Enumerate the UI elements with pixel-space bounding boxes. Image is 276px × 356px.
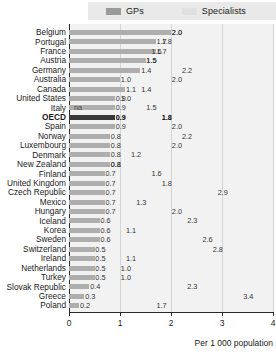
gp-value-label: 0.7 — [106, 207, 116, 216]
country-label: Hungary — [0, 207, 69, 216]
legend-label-specialists: Specialists — [202, 6, 246, 16]
bar-track: 0.82.2 — [69, 132, 273, 141]
legend-item-gps: GPs — [106, 6, 144, 16]
specialist-value-label: 1.8 — [162, 179, 172, 188]
na-annotation: na — [74, 103, 82, 112]
bar-track: 0.72.0 — [69, 207, 273, 216]
legend-item-specialists: Specialists — [182, 6, 246, 16]
gp-bar — [69, 96, 115, 101]
bar-track: 1.51.5 — [69, 56, 273, 65]
gp-bar — [69, 266, 95, 271]
gp-bar — [69, 303, 79, 308]
specialist-value-label: 2.0 — [172, 141, 182, 150]
specialist-value-label: 2.9 — [218, 188, 228, 197]
gp-value-label: 0.9 — [116, 122, 126, 131]
gp-bar — [69, 247, 95, 252]
gp-bar — [69, 58, 146, 63]
gp-bar — [69, 200, 105, 205]
country-label: New Zealand — [0, 160, 69, 169]
chart-row: United States0.91.0 — [0, 94, 276, 103]
bar-rows: Belgium2.02.0Portugal1.71.8France1.71.6A… — [0, 28, 276, 311]
specialist-value-label: 2.8 — [213, 245, 223, 254]
gp-value-label: 1.0 — [121, 75, 131, 84]
specialist-value-label: 2.0 — [172, 75, 182, 84]
gp-value-label: 0.9 — [116, 113, 126, 122]
bar-track: 0.71.8 — [69, 179, 273, 188]
specialist-value-label: 1.0 — [121, 264, 131, 273]
chart-legend: GPs Specialists — [88, 2, 276, 20]
bar-track: 0.61.1 — [69, 226, 273, 235]
bar-track: 0.82.0 — [69, 141, 273, 150]
plot-area: 01234 Belgium2.02.0Portugal1.71.8France1… — [0, 24, 276, 316]
specialist-value-label: 1.4 — [141, 85, 151, 94]
bar-track: 0.72.9 — [69, 188, 273, 197]
bar-track: 0.62.6 — [69, 235, 273, 244]
country-label: Poland — [0, 301, 69, 310]
bar-track: 0.51.0 — [69, 264, 273, 273]
bar-track: 0.51.1 — [69, 254, 273, 263]
gp-value-label: 0.8 — [111, 141, 121, 150]
gp-bar — [69, 77, 120, 82]
x-tick — [171, 312, 172, 316]
x-tick-label: 2 — [169, 318, 174, 328]
specialist-value-label: 1.6 — [151, 169, 161, 178]
specialist-value-label: 1.3 — [136, 198, 146, 207]
chart-row: OECD0.91.8 — [0, 113, 276, 122]
gp-value-label: 0.5 — [95, 264, 105, 273]
gp-value-label: 0.2 — [80, 301, 90, 310]
chart-row: Belgium2.02.0 — [0, 28, 276, 37]
bar-track: 0.51.0 — [69, 273, 273, 282]
country-label: Luxembourg — [0, 141, 69, 150]
specialist-value-label: 1.8 — [162, 113, 172, 122]
gp-value-label: 0.7 — [106, 198, 116, 207]
bar-track: 0.92.0 — [69, 122, 273, 131]
gps-swatch-icon — [106, 8, 121, 15]
gp-bar — [69, 284, 89, 289]
gp-bar — [69, 143, 110, 148]
x-tick-label: 3 — [220, 318, 225, 328]
specialist-value-label: 1.5 — [146, 56, 156, 65]
country-label: Belgium — [0, 28, 69, 37]
bar-track: 0.52.8 — [69, 245, 273, 254]
chart-row: Turkey0.51.0 — [0, 273, 276, 282]
gp-value-label: 0.5 — [95, 254, 105, 263]
gp-bar — [69, 30, 171, 35]
x-tick — [222, 312, 223, 316]
chart-row: Iceland0.62.3 — [0, 216, 276, 225]
gp-value-label: 0.6 — [100, 226, 110, 235]
bar-track: 1.11.4 — [69, 85, 273, 94]
specialist-value-label: 1.1 — [126, 226, 136, 235]
specialist-value-label: 1.0 — [121, 273, 131, 282]
bar-track: 0.71.6 — [69, 169, 273, 178]
x-tick-label: 1 — [118, 318, 123, 328]
gp-bar — [69, 39, 156, 44]
gp-bar — [69, 124, 115, 129]
gp-bar — [69, 294, 84, 299]
bar-track: 0.21.7 — [69, 301, 273, 310]
gp-bar — [69, 209, 105, 214]
gp-value-label: 0.7 — [106, 169, 116, 178]
gp-bar — [69, 237, 100, 242]
country-label: United States — [0, 94, 69, 103]
bar-track: 0.33.4 — [69, 292, 273, 301]
x-tick — [120, 312, 121, 316]
specialist-value-label: 1.2 — [131, 150, 141, 159]
gp-bar — [69, 256, 95, 261]
gp-value-label: 0.5 — [95, 273, 105, 282]
gp-bar — [69, 190, 105, 195]
gp-value-label: 0.4 — [90, 282, 100, 291]
bar-track: 0.42.3 — [69, 282, 273, 291]
chart-container: GPs Specialists 01234 Belgium2.02.0Portu… — [0, 0, 276, 356]
gp-bar — [69, 162, 110, 167]
bar-track: 0.80.8 — [69, 160, 273, 169]
specialist-value-label: 3.4 — [243, 292, 253, 301]
bar-track: 1.02.0 — [69, 75, 273, 84]
x-tick — [69, 312, 70, 316]
specialist-value-label: 2.2 — [182, 66, 192, 75]
specialists-swatch-icon — [182, 8, 197, 15]
country-label: Turkey — [0, 273, 69, 282]
gp-bar — [69, 115, 115, 120]
bar-track: 0.91.8 — [69, 113, 273, 122]
specialist-value-label: 1.6 — [151, 47, 161, 56]
x-tick-label: 0 — [67, 318, 72, 328]
